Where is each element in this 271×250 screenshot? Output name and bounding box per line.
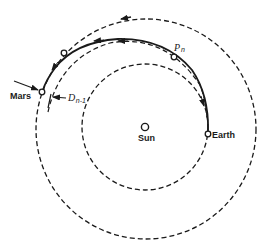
- earth-marker: [205, 131, 211, 137]
- mars-marker: [39, 89, 45, 95]
- sun-label: Sun: [138, 133, 155, 143]
- orbit-diagram: Sun Earth Pn Mars Dn-1: [0, 0, 271, 250]
- pn-label: Pn: [173, 42, 185, 53]
- pn-marker: [171, 54, 177, 60]
- mars-pointer-arrow-icon: [14, 81, 38, 90]
- dn-label: Dn-1: [67, 92, 86, 104]
- sun-marker: [141, 123, 148, 130]
- mars-label: Mars: [10, 91, 31, 101]
- dn-arrow-icon: [53, 97, 66, 98]
- earth-label: Earth: [212, 130, 235, 140]
- outer-orbit-arrow-icon: [121, 17, 131, 19]
- intermediate-point-marker: [61, 50, 67, 56]
